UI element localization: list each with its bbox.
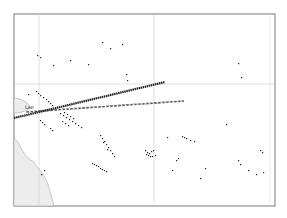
island-dot bbox=[43, 97, 44, 98]
island-dot bbox=[241, 77, 242, 78]
island-dot bbox=[28, 94, 29, 95]
island-dot bbox=[167, 137, 168, 138]
island-dot bbox=[205, 168, 206, 169]
island-dot bbox=[127, 80, 128, 81]
island-dot bbox=[41, 174, 42, 175]
island-dot bbox=[122, 44, 123, 45]
island-dot bbox=[63, 115, 64, 116]
island-dot bbox=[102, 169, 103, 170]
island-dot bbox=[52, 130, 53, 131]
island-dot bbox=[106, 171, 107, 172]
island-dot bbox=[66, 117, 67, 118]
island-dot bbox=[200, 178, 201, 179]
island-dot bbox=[260, 150, 261, 151]
island-dot bbox=[50, 128, 51, 129]
island-dot bbox=[70, 116, 71, 117]
island-dot bbox=[103, 142, 104, 143]
island-dot bbox=[68, 125, 69, 126]
island-dot bbox=[226, 124, 227, 125]
island-dot bbox=[145, 150, 146, 151]
island-dot bbox=[148, 155, 149, 156]
island-dot bbox=[194, 141, 195, 142]
island-dot bbox=[238, 160, 239, 161]
map-canvas[interactable]: Lae bbox=[0, 0, 287, 218]
island-dot bbox=[240, 164, 241, 165]
island-dot bbox=[48, 101, 49, 102]
island-dot bbox=[44, 124, 45, 125]
island-dot bbox=[263, 172, 264, 173]
island-dot bbox=[178, 158, 179, 159]
island-dot bbox=[110, 48, 111, 49]
island-dot bbox=[186, 138, 187, 139]
island-dot bbox=[238, 63, 239, 64]
island-dot bbox=[147, 152, 148, 153]
island-dot bbox=[52, 105, 53, 106]
island-dot bbox=[107, 149, 108, 150]
island-dot bbox=[40, 57, 41, 58]
island-dot bbox=[96, 165, 97, 166]
island-dot bbox=[256, 174, 257, 175]
island-dot bbox=[172, 170, 173, 171]
island-dot bbox=[73, 118, 74, 119]
island-dot bbox=[40, 120, 41, 121]
island-dot bbox=[102, 42, 103, 43]
island-dot bbox=[126, 74, 127, 75]
island-dot bbox=[88, 64, 89, 65]
island-dot bbox=[248, 170, 249, 171]
island-dot bbox=[184, 137, 185, 138]
island-dot bbox=[100, 168, 101, 169]
island-dot bbox=[42, 122, 43, 123]
island-dot bbox=[108, 147, 109, 148]
island-dot bbox=[62, 121, 63, 122]
island-dot bbox=[64, 112, 65, 113]
island-dot bbox=[152, 156, 153, 157]
island-dot bbox=[44, 170, 45, 171]
island-dot bbox=[149, 153, 150, 154]
island-dot bbox=[155, 155, 156, 156]
island-dot bbox=[50, 103, 51, 104]
island-dot bbox=[37, 55, 38, 56]
island-dot bbox=[78, 125, 79, 126]
island-dot bbox=[106, 144, 107, 145]
island-dot bbox=[146, 154, 147, 155]
island-dot bbox=[98, 166, 99, 167]
place-label-lae: Lae bbox=[25, 104, 34, 110]
island-dot bbox=[110, 150, 111, 151]
island-dot bbox=[153, 150, 154, 151]
island-dot bbox=[67, 114, 68, 115]
island-dot bbox=[53, 65, 54, 66]
island-dot bbox=[75, 123, 76, 124]
island-dot bbox=[114, 156, 115, 157]
island-dot bbox=[40, 95, 41, 96]
island-dot bbox=[102, 138, 103, 139]
island-dot bbox=[151, 151, 152, 152]
island-dot bbox=[262, 152, 263, 153]
island-dot bbox=[92, 163, 93, 164]
island-dot bbox=[46, 99, 47, 100]
island-dot bbox=[190, 140, 191, 141]
island-dot bbox=[100, 135, 101, 136]
island-dot bbox=[60, 113, 61, 114]
island-dot bbox=[72, 121, 73, 122]
island-dot bbox=[38, 93, 39, 94]
island-dot bbox=[112, 153, 113, 154]
island-dot bbox=[70, 60, 71, 61]
island-dot bbox=[182, 136, 183, 137]
map-frame bbox=[14, 14, 275, 206]
island-dot bbox=[94, 164, 95, 165]
island-dot bbox=[65, 123, 66, 124]
island-dot bbox=[69, 119, 70, 120]
island-dot bbox=[150, 156, 151, 157]
island-dot bbox=[104, 170, 105, 171]
island-dot bbox=[36, 91, 37, 92]
island-dot bbox=[81, 127, 82, 128]
island-dot bbox=[176, 160, 177, 161]
